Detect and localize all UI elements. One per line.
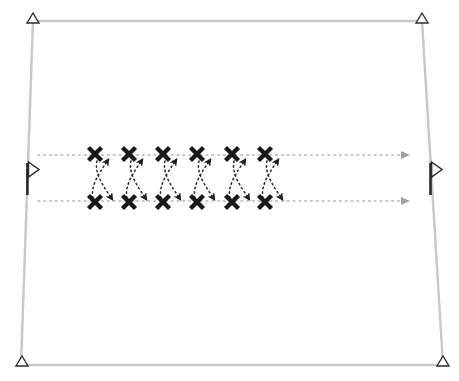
left-side-flag — [26, 162, 39, 195]
path-upward — [160, 163, 174, 198]
right-side-flag-triangle-icon — [432, 162, 442, 177]
weave-pair-2 — [126, 161, 144, 198]
player-top-5 — [226, 148, 239, 161]
player-bottom-6 — [259, 196, 272, 209]
player-markers-group — [89, 148, 272, 209]
play-diagram — [0, 0, 459, 381]
movement-paths-group — [92, 161, 280, 198]
weave-pair-4 — [194, 161, 212, 198]
lane-lines-group — [38, 155, 402, 201]
path-upward — [92, 163, 106, 198]
player-bottom-1 — [89, 196, 102, 209]
field-boundary — [21, 21, 443, 365]
player-top-1 — [89, 148, 102, 161]
player-bottom-4 — [191, 196, 204, 209]
player-top-2 — [123, 148, 136, 161]
weave-pair-5 — [229, 161, 247, 198]
player-bottom-3 — [157, 196, 170, 209]
weave-pair-3 — [160, 161, 178, 198]
player-bottom-5 — [226, 196, 239, 209]
field-boundary-path — [21, 21, 443, 365]
corner-flag-bottom-right-icon — [437, 356, 449, 366]
weave-pair-1 — [92, 161, 110, 198]
player-top-4 — [191, 148, 204, 161]
player-top-6 — [259, 148, 272, 161]
path-upward — [262, 163, 276, 198]
player-bottom-2 — [123, 196, 136, 209]
corner-markers-group — [16, 13, 449, 366]
corner-flag-top-left-icon — [27, 13, 39, 23]
corner-flag-top-right-icon — [416, 13, 428, 23]
path-upward — [229, 163, 243, 198]
weave-pair-6 — [262, 161, 280, 198]
player-top-3 — [157, 148, 170, 161]
corner-flag-bottom-left-icon — [16, 356, 28, 366]
diagram-canvas — [0, 0, 459, 381]
path-upward — [126, 163, 140, 198]
left-side-flag-triangle-icon — [29, 162, 40, 177]
path-upward — [194, 163, 208, 198]
right-side-flag — [429, 162, 442, 195]
